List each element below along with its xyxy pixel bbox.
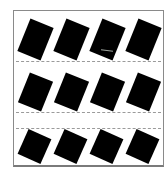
dashed-separator	[16, 128, 161, 129]
dashed-separator	[16, 112, 161, 113]
dashed-separator	[16, 61, 161, 62]
